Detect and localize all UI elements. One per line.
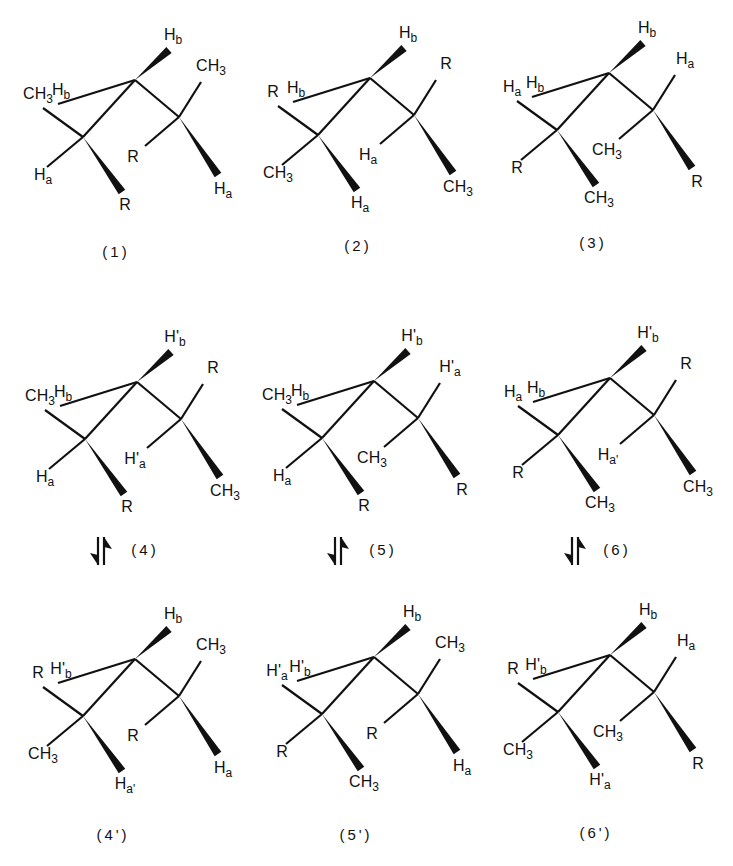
label-cr-wedge: R <box>456 481 468 498</box>
bond-left-up <box>278 106 318 135</box>
bond-left-down <box>286 714 322 744</box>
bond-center-right <box>135 80 179 117</box>
label-cc-wedge: H'b <box>164 328 186 349</box>
structure-5: CH3HaRHbH'bH'aCH3R(5) <box>262 327 468 558</box>
structure-caption: (4') <box>96 826 129 843</box>
bond-right-up <box>653 75 675 110</box>
label-cc-up: Hb <box>54 383 73 404</box>
label-cr-down: R <box>127 727 139 744</box>
label-cl-up: R <box>507 660 519 677</box>
bond-center-right <box>609 73 653 110</box>
bond-left-up <box>518 406 558 435</box>
label-cl-wedge: CH3 <box>584 189 614 210</box>
bond-left-up <box>282 409 322 438</box>
bond-right-up <box>179 661 201 696</box>
label-cr-wedge: Ha <box>453 757 472 778</box>
bond-center-right <box>137 382 181 419</box>
label-cl-up: Ha <box>503 78 522 99</box>
bond-center-right <box>610 655 654 692</box>
label-cl-down: CH3 <box>263 164 293 185</box>
label-cr-up: R <box>440 55 452 72</box>
label-cl-down: R <box>276 743 288 760</box>
label-cr-up: CH3 <box>196 57 226 78</box>
bond-left-up <box>43 687 83 716</box>
bond-right-up <box>654 657 676 692</box>
structure-caption: (5) <box>369 541 396 558</box>
bond-right-up <box>179 82 201 117</box>
structure-6: HaRCH3HbH'bRHa'CH3(6) <box>504 324 713 558</box>
label-cr-down: R <box>366 725 378 742</box>
structure-1: CH3HaRHbHbCH3RHa(1) <box>23 26 232 260</box>
bond-right-up <box>418 659 440 694</box>
label-cc-up: Hb <box>52 81 71 102</box>
bond-left-down <box>286 438 322 468</box>
label-cl-wedge: Ha' <box>115 775 136 796</box>
label-cl-wedge: H'a <box>589 771 611 792</box>
label-cr-wedge: R <box>691 173 703 190</box>
label-cl-wedge: Ha <box>351 194 370 215</box>
label-cc-up: Hb <box>526 74 545 95</box>
structure-4: CH3HaRHbH'bRH'aCH3(4) <box>25 328 240 558</box>
bond-center-right <box>370 78 414 115</box>
label-cr-down: CH3 <box>593 723 623 744</box>
bond-left-down <box>282 135 318 165</box>
bond-right-down <box>619 110 653 139</box>
label-cc-wedge: Hb <box>164 605 183 626</box>
bond-right-down <box>380 115 414 144</box>
structure-6p: RCH3H'aH'bHbHaCH3R(6') <box>503 601 704 841</box>
label-cc-up: Hb <box>527 379 546 400</box>
label-cl-up: CH3 <box>23 85 53 106</box>
label-cl-up: Ha <box>504 383 523 404</box>
bond-center-right <box>374 381 418 418</box>
bond-left-up <box>45 410 85 439</box>
label-cr-down: Ha' <box>598 446 619 467</box>
label-cl-up: CH3 <box>262 386 292 407</box>
label-cl-up: H'a <box>266 662 288 683</box>
bond-center-right <box>135 659 179 696</box>
bond-center-right <box>374 657 418 694</box>
label-cc-wedge: Hb <box>638 19 657 40</box>
bond-right-up <box>654 380 676 415</box>
label-cl-down: Ha <box>273 467 292 488</box>
bond-left-up <box>43 108 83 137</box>
bond-right-down <box>147 419 181 448</box>
label-cr-up: H'a <box>439 358 461 379</box>
label-cc-wedge: H'b <box>637 324 659 345</box>
label-cr-down: Ha <box>359 146 378 167</box>
structure-caption: (2) <box>344 237 371 254</box>
label-cc-up: H'b <box>50 660 72 681</box>
label-cc-up: H'b <box>289 658 311 679</box>
bond-right-down <box>384 694 418 723</box>
label-cl-wedge: R <box>119 196 131 213</box>
label-cl-down: R <box>512 464 524 481</box>
label-cr-down: CH3 <box>357 449 387 470</box>
label-cr-wedge: CH3 <box>210 482 240 503</box>
bond-right-up <box>418 383 440 418</box>
label-cr-down: R <box>127 148 139 165</box>
label-cr-up: R <box>680 355 692 372</box>
structure-caption: (3) <box>579 234 606 251</box>
bond-left-down <box>47 137 83 167</box>
label-cc-up: H'b <box>525 656 547 677</box>
equilibrium-arrows-icon <box>327 537 349 565</box>
bond-left-down <box>522 435 558 465</box>
label-cc-up: Hb <box>291 382 310 403</box>
bond-right-down <box>620 692 654 721</box>
label-cr-up: CH3 <box>196 636 226 657</box>
label-cr-wedge: CH3 <box>443 178 473 199</box>
label-cr-wedge: Ha <box>214 759 233 780</box>
bond-left-down <box>521 130 557 160</box>
bond-left-up <box>282 685 322 714</box>
bond-center-right <box>610 378 654 415</box>
label-cr-wedge: Ha <box>214 180 233 201</box>
label-cc-wedge: H'b <box>401 327 423 348</box>
equilibrium-arrows-icon <box>564 537 586 565</box>
label-cr-up: Ha <box>677 632 696 653</box>
bond-right-down <box>620 415 654 444</box>
label-cl-down: Ha <box>36 468 55 489</box>
label-cr-down: H'a <box>124 450 146 471</box>
bond-right-up <box>414 80 436 115</box>
label-cl-down: Ha <box>34 166 53 187</box>
label-cr-wedge: R <box>692 755 704 772</box>
structure-caption: (5') <box>339 826 372 843</box>
